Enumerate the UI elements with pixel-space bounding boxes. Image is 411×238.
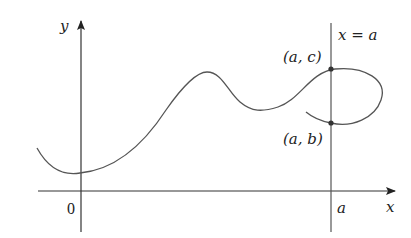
- point-a-c-label: (a, c): [283, 48, 322, 66]
- point-a-b-label: (a, b): [283, 130, 323, 148]
- point-a-b: [328, 120, 333, 125]
- x-axis-label: x: [386, 198, 395, 216]
- point-a-c: [328, 66, 333, 71]
- a-tick-label: a: [337, 199, 346, 217]
- vertical-line-label: x = a: [338, 26, 378, 44]
- origin-label: 0: [67, 200, 75, 217]
- curve-diagram: y x 0 a x = a (a, c) (a, b): [0, 0, 411, 238]
- y-axis-label: y: [59, 17, 69, 35]
